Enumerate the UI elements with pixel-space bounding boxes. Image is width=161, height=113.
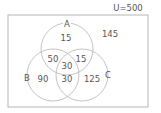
region-b-c-only: 30 (62, 74, 73, 84)
region-a-b-only: 50 (48, 54, 59, 64)
region-outside: 145 (102, 29, 118, 39)
venn-diagram: U=500 A B C 15 145 50 15 30 90 30 125 (0, 0, 161, 113)
region-a-b-c: 30 (62, 61, 73, 71)
set-a-label: A (64, 19, 70, 29)
region-c-only: 125 (84, 74, 100, 84)
region-a-only: 15 (61, 33, 72, 43)
set-c-label: C (105, 70, 111, 80)
region-b-only: 90 (38, 74, 49, 84)
region-a-c-only: 15 (76, 54, 87, 64)
universe-label: U=500 (113, 3, 143, 13)
set-b-label: B (24, 73, 30, 83)
